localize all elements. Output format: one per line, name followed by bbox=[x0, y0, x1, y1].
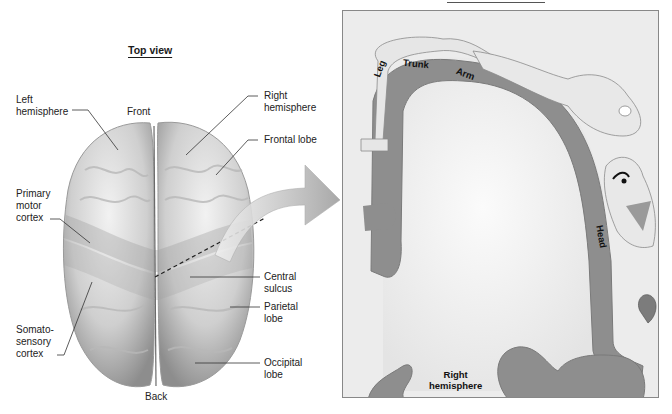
label-trunk: Trunk bbox=[403, 57, 430, 70]
label-right-hemisphere: Right hemisphere bbox=[264, 90, 316, 114]
back-label: Back bbox=[145, 391, 167, 403]
label-panel-right-hemisphere: Right hemisphere bbox=[429, 369, 482, 391]
label-primary-motor-cortex: Primary motor cortex bbox=[16, 188, 50, 224]
label-frontal-lobe: Frontal lobe bbox=[264, 134, 317, 146]
homunculus-illustration bbox=[343, 11, 659, 398]
label-parietal-lobe: Parietal lobe bbox=[264, 301, 298, 325]
label-somatosensory-cortex: Somato- sensory cortex bbox=[16, 324, 54, 360]
front-label: Front bbox=[127, 106, 150, 118]
label-occipital-lobe: Occipital lobe bbox=[264, 357, 302, 381]
panel-top-rule bbox=[447, 2, 545, 3]
homunculus-panel: Leg Trunk Arm Head Right hemisphere bbox=[342, 10, 659, 398]
label-central-sulcus: Central sulcus bbox=[264, 271, 296, 295]
label-left-hemisphere: Left hemisphere bbox=[16, 94, 68, 118]
